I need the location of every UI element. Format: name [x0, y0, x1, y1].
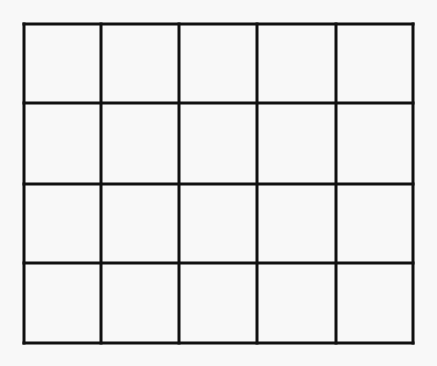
grid-cell	[179, 24, 257, 103]
grid-cell	[24, 103, 101, 184]
grid-cell	[336, 184, 413, 263]
grid-cell	[24, 263, 101, 343]
grid-cell	[101, 184, 179, 263]
grid-cell	[257, 184, 336, 263]
grid-cell	[101, 103, 179, 184]
grid-cell	[336, 24, 413, 103]
grid-cell	[257, 263, 336, 343]
grid-cell	[257, 103, 336, 184]
grid-diagram	[0, 0, 437, 366]
grid-canvas	[0, 0, 437, 366]
grid-cell	[101, 24, 179, 103]
grid-cell	[179, 263, 257, 343]
grid-cell	[24, 184, 101, 263]
grid-cell	[336, 263, 413, 343]
grid-cell	[336, 103, 413, 184]
grid-cell	[179, 103, 257, 184]
grid-cell	[257, 24, 336, 103]
grid-cell	[24, 24, 101, 103]
grid-cell	[101, 263, 179, 343]
grid-cell	[179, 184, 257, 263]
